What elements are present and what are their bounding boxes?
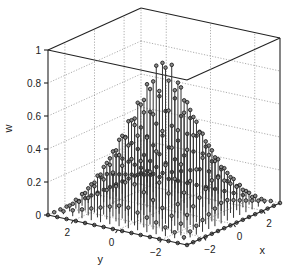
stem (188, 179, 192, 225)
stem (62, 209, 66, 214)
stem (120, 164, 124, 219)
stem-marker (151, 80, 155, 84)
stem-marker (241, 188, 245, 192)
stem-marker (263, 199, 267, 203)
stem (185, 213, 189, 232)
stem (195, 224, 199, 235)
stem (232, 198, 236, 217)
stem-marker (142, 190, 146, 194)
stem-marker (201, 218, 205, 222)
stem-marker (161, 206, 165, 210)
stem-marker (133, 123, 137, 127)
stem (229, 182, 233, 213)
stem-marker (136, 134, 140, 138)
stem-marker (173, 231, 177, 235)
stem-marker (130, 157, 134, 161)
stem-marker (195, 168, 199, 172)
stem (179, 222, 183, 236)
stem-marker (161, 129, 165, 133)
stem-marker (154, 150, 158, 154)
stem-marker (195, 224, 199, 228)
stem-marker (188, 108, 192, 112)
stem-marker (170, 146, 174, 150)
stem-marker (219, 165, 223, 169)
stem-marker (99, 206, 103, 210)
stem-marker (139, 103, 143, 107)
stem (130, 157, 134, 220)
stem-marker (179, 222, 183, 226)
stem (170, 146, 174, 221)
stem-marker (173, 177, 177, 181)
stem (77, 200, 81, 214)
stem-marker (229, 182, 233, 186)
stem-marker (161, 61, 165, 65)
stem-marker (192, 115, 196, 119)
stem3-plot: 00.20.40.60.81−202−202 x y w (0, 0, 291, 273)
stem-marker (117, 204, 121, 208)
stem-marker (191, 205, 195, 209)
stem-marker (164, 226, 168, 230)
stem-marker (151, 113, 155, 117)
stem-marker (142, 98, 146, 102)
stem (154, 150, 158, 222)
stem-marker (207, 144, 211, 148)
stem-marker (238, 199, 242, 203)
stem-marker (173, 88, 177, 92)
stem-marker (96, 192, 100, 196)
stem-marker (210, 149, 214, 153)
stem (142, 190, 146, 227)
stem-marker (232, 198, 236, 202)
stem-marker (176, 81, 180, 85)
stem (145, 216, 149, 232)
stem-marker (108, 157, 112, 161)
stem (213, 159, 217, 214)
stem-marker (179, 163, 183, 167)
stem-marker (127, 206, 131, 210)
stem-marker (226, 171, 230, 175)
stem (80, 208, 84, 219)
stem-marker (182, 191, 186, 195)
stem-marker (99, 173, 103, 177)
stem-series (46, 61, 282, 247)
stem-marker (167, 192, 171, 196)
stem-marker (133, 183, 137, 187)
stem-marker (114, 184, 118, 188)
x-axis-label: x (260, 244, 266, 256)
stem-marker (52, 210, 56, 214)
stem (89, 207, 93, 221)
stem-marker (117, 153, 121, 157)
stem-marker (213, 207, 217, 211)
stem (83, 191, 87, 210)
stem (250, 199, 254, 210)
stem-marker (182, 111, 186, 115)
stem-marker (198, 196, 202, 200)
z-tick-label: 0.4 (27, 144, 41, 155)
z-tick-label: 0 (35, 210, 41, 221)
stem (123, 181, 127, 224)
stem (198, 196, 202, 227)
stem-marker (170, 63, 174, 67)
stem-marker (219, 201, 223, 205)
stem (195, 168, 199, 223)
stem-marker (145, 136, 149, 140)
stem-marker (111, 171, 115, 175)
stem-marker (123, 181, 127, 185)
stem-marker (136, 211, 140, 215)
stem-marker (77, 200, 81, 204)
stem-marker (182, 235, 186, 239)
stem-marker (164, 163, 168, 167)
stem-marker (80, 208, 84, 212)
stem-marker (157, 181, 161, 185)
stem-marker (170, 214, 174, 218)
stem (241, 188, 245, 207)
stem-marker (201, 156, 205, 160)
stem-marker (145, 82, 149, 86)
stem-marker (232, 177, 236, 181)
stem-marker (62, 209, 66, 213)
stem-marker (86, 187, 90, 191)
stem-marker (145, 216, 149, 220)
stem-marker (93, 184, 97, 188)
stem-marker (176, 202, 180, 206)
stem (117, 204, 121, 226)
stem-marker (120, 164, 124, 168)
